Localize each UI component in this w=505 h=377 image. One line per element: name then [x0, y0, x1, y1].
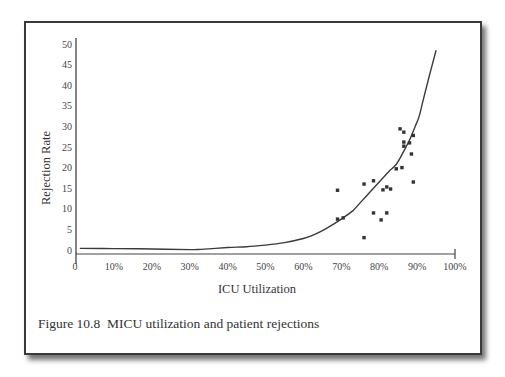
y-tick-label: 35	[62, 100, 72, 111]
data-point	[408, 141, 411, 144]
x-axis-title: ICU Utilization	[218, 282, 297, 296]
data-point	[362, 236, 365, 239]
data-point	[412, 180, 415, 183]
data-point	[400, 166, 403, 169]
data-point	[395, 167, 398, 170]
y-tick-label: 5	[67, 224, 72, 235]
data-point	[336, 189, 339, 192]
x-tick-label: 70%	[332, 261, 350, 272]
y-axis: 05101520253035404550	[62, 38, 76, 264]
data-point	[402, 140, 405, 143]
data-point	[372, 211, 375, 214]
data-point	[379, 218, 382, 221]
y-tick-label: 25	[62, 142, 72, 153]
y-axis-title: Rejection Rate	[39, 131, 53, 205]
data-point	[410, 152, 413, 155]
y-tick-label: 10	[62, 203, 72, 214]
y-tick-label: 0	[67, 245, 72, 256]
x-tick-label: 50%	[256, 261, 274, 272]
data-point	[362, 182, 365, 185]
y-tick-label: 15	[62, 183, 72, 194]
x-tick-label: 30%	[181, 261, 199, 272]
data-point	[341, 216, 344, 219]
data-point	[389, 187, 392, 190]
y-tick-label: 40	[62, 80, 72, 91]
x-tick-label: 100%	[443, 261, 466, 272]
scatter-points	[336, 127, 415, 239]
x-tick-label: 0	[73, 261, 78, 272]
x-tick-label: 60%	[294, 261, 312, 272]
y-tick-label: 30	[62, 121, 72, 132]
figure-caption: Figure 10.8 MICU utilization and patient…	[38, 316, 319, 332]
data-point	[336, 217, 339, 220]
y-tick-label: 50	[62, 39, 72, 50]
data-point	[402, 144, 405, 147]
x-tick-label: 90%	[408, 261, 426, 272]
data-point	[412, 134, 415, 137]
data-point	[381, 188, 384, 191]
data-point	[398, 127, 401, 130]
x-tick-label: 40%	[218, 261, 236, 272]
y-tick-label: 20	[62, 162, 72, 173]
data-point	[385, 185, 388, 188]
y-tick-label: 45	[62, 59, 72, 70]
data-point	[402, 130, 405, 133]
x-axis: 010%20%30%40%50%60%70%80%90%100%	[73, 249, 467, 272]
data-point	[372, 179, 375, 182]
data-point	[385, 211, 388, 214]
x-tick-label: 10%	[105, 261, 123, 272]
x-tick-label: 80%	[370, 261, 388, 272]
x-tick-label: 20%	[143, 261, 161, 272]
